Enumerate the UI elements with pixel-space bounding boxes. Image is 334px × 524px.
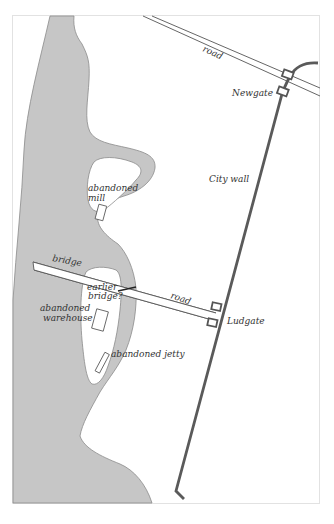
earlier-bridge-label-line2: bridge? — [88, 291, 123, 301]
ludgate-label: Ludgate — [226, 316, 265, 326]
map: road Newgate City wall abandoned mill br… — [0, 0, 334, 524]
warehouse-label-line1: abandoned — [40, 303, 91, 313]
jetty-label: abandoned jetty — [111, 349, 186, 359]
warehouse-label-line2: warehouse — [43, 313, 93, 323]
mill-label-line1: abandoned — [88, 183, 139, 193]
map-canvas: road Newgate City wall abandoned mill br… — [0, 0, 334, 524]
newgate-label: Newgate — [231, 88, 273, 98]
city-wall-label: City wall — [209, 174, 249, 184]
mill-label-line2: mill — [88, 193, 105, 203]
